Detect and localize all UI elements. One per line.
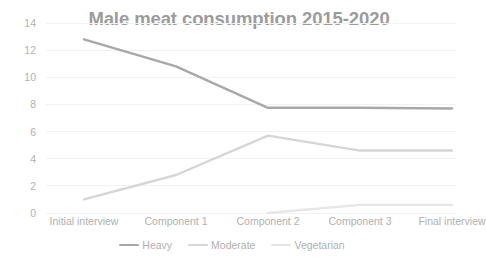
y-axis-tick-label: 14 xyxy=(2,17,36,29)
chart-legend: HeavyModerateVegetarian xyxy=(0,236,464,254)
legend-swatch-icon xyxy=(119,244,139,246)
legend-swatch-icon xyxy=(271,244,291,246)
legend-item-vegetarian[interactable]: Vegetarian xyxy=(271,238,344,252)
series-line-vegetarian xyxy=(268,205,452,213)
x-axis-tick-label: Component 3 xyxy=(328,215,391,227)
legend-label: Moderate xyxy=(211,238,255,252)
x-axis-tick-label: Component 2 xyxy=(236,215,299,227)
y-axis-tick-label: 12 xyxy=(2,44,36,56)
legend-label: Heavy xyxy=(142,238,172,252)
x-axis-tick-label: Final interview xyxy=(418,215,485,227)
y-axis-tick-label: 10 xyxy=(2,71,36,83)
y-axis-tick-label: 4 xyxy=(2,153,36,165)
series-line-heavy xyxy=(84,39,452,108)
y-axis-tick-label: 6 xyxy=(2,126,36,138)
series-line-moderate xyxy=(84,136,452,200)
legend-swatch-icon xyxy=(188,244,208,246)
y-axis-tick-label: 8 xyxy=(2,98,36,110)
legend-item-heavy[interactable]: Heavy xyxy=(119,238,172,252)
legend-label: Vegetarian xyxy=(294,238,344,252)
plot-area xyxy=(46,23,456,213)
legend-item-moderate[interactable]: Moderate xyxy=(188,238,255,252)
y-axis-tick-label: 2 xyxy=(2,180,36,192)
x-axis-tick-label: Initial interview xyxy=(50,215,119,227)
x-axis-tick-label: Component 1 xyxy=(144,215,207,227)
y-axis: 02468101214 xyxy=(0,23,42,213)
x-axis: Initial interviewComponent 1Component 2C… xyxy=(46,215,456,231)
series-lines xyxy=(46,23,456,213)
y-axis-tick-label: 0 xyxy=(2,207,36,219)
